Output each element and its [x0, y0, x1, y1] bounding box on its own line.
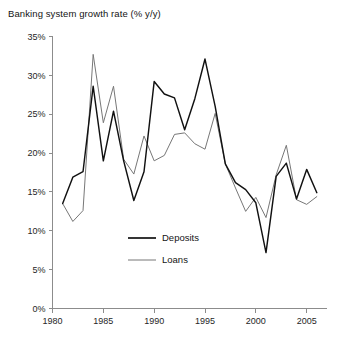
x-axis-ticks: 198019851990199520002005 [42, 309, 316, 326]
x-tick-label: 2005 [297, 316, 317, 326]
x-tick-label: 1995 [195, 316, 215, 326]
legend-label-loans: Loans [162, 254, 188, 265]
y-tick-label: 0% [32, 304, 45, 314]
y-tick-label: 10% [27, 226, 45, 236]
y-tick-label: 5% [32, 265, 45, 275]
chart-container: Banking system growth rate (% y/y) 0%5%1… [0, 0, 339, 348]
legend-label-deposits: Deposits [162, 232, 199, 243]
y-tick-label: 15% [27, 187, 45, 197]
series-line-deposits [63, 59, 317, 253]
y-tick-label: 35% [27, 32, 45, 42]
y-axis-ticks: 0%5%10%15%20%25%30%35% [27, 32, 52, 314]
y-tick-label: 30% [27, 71, 45, 81]
x-tick-label: 1980 [42, 316, 62, 326]
y-tick-label: 25% [27, 109, 45, 119]
line-chart-plot: 0%5%10%15%20%25%30%35% 19801985199019952… [0, 0, 339, 348]
x-tick-label: 1990 [144, 316, 164, 326]
x-tick-label: 2000 [246, 316, 266, 326]
chart-legend: DepositsLoans [128, 232, 199, 265]
y-tick-label: 20% [27, 148, 45, 158]
x-tick-label: 1985 [93, 316, 113, 326]
